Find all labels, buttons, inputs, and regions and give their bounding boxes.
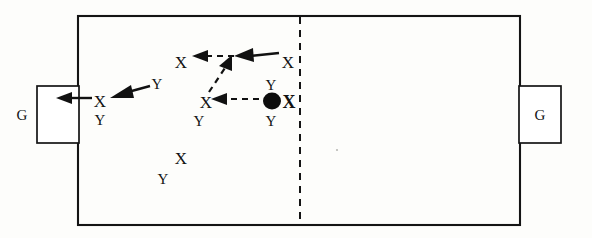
player-marker-x5-with-ball: X [283,92,296,112]
scan-speck [336,149,338,151]
pass-arrowhead-1 [211,93,227,105]
player-marker-x1: X [94,92,106,111]
player-marker-x6: X [175,149,187,168]
run-arrowhead-1 [234,48,254,62]
player-marker-x3: X [282,53,294,72]
right-goal-label: G [535,107,546,123]
player-marker-x2: X [175,53,187,72]
player-marker-x4: X [200,93,212,112]
diagram-page: G G X Y Y X X X Y Y X [0,0,592,238]
ball [263,93,281,110]
pass-arrowhead-3 [192,50,208,62]
player-marker-y5: Y [266,113,277,129]
pass-arrowhead-2 [219,55,232,71]
player-marker-y2: Y [152,76,163,92]
run-arrowhead-2 [110,85,134,98]
player-marker-y4: Y [266,77,277,93]
left-goal-label: G [17,107,28,123]
player-marker-y6: Y [158,171,169,187]
tactical-diagram-canvas: G G X Y Y X X X Y Y X [0,0,592,238]
pass-arrow-x4-to-junction [209,68,225,92]
run-arrow-x3-to-junction [250,53,279,56]
left-goal-box [37,86,79,143]
player-marker-y3: Y [194,113,205,129]
player-marker-y1: Y [95,112,106,128]
